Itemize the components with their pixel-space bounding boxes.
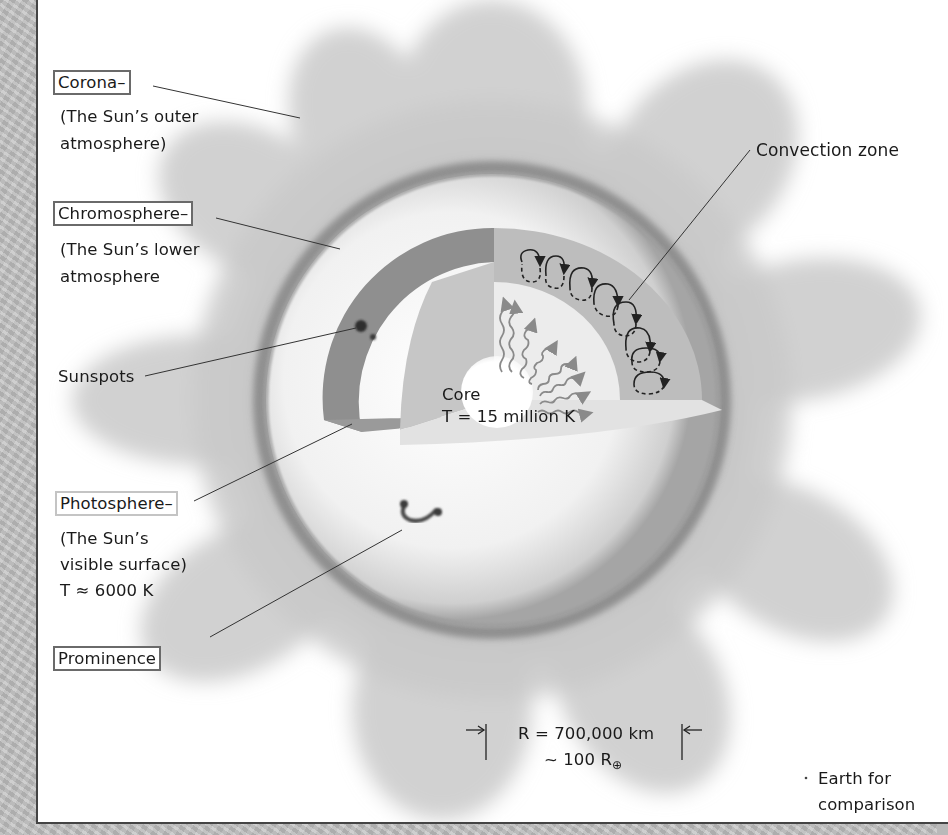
earth-dot — [805, 777, 808, 780]
photosphere-desc-1: (The Sun’s — [60, 528, 149, 549]
photosphere-desc-2: visible surface) — [60, 554, 187, 575]
corona-desc-2: atmosphere) — [60, 133, 167, 154]
chromosphere-desc-2: atmosphere — [60, 266, 160, 287]
earth-label-2: comparison — [818, 794, 915, 815]
prominence-label: Prominence — [53, 646, 161, 671]
radius-earth-ratio: ~ 100 R⊕ — [544, 749, 622, 776]
corona-name-box: Corona– — [53, 70, 131, 95]
chromosphere-name-box: Chromosphere– — [53, 201, 193, 226]
corona-label: Corona– — [53, 70, 131, 95]
photosphere-name-box: Photosphere– — [55, 491, 178, 516]
core-temperature: T = 15 million K — [442, 406, 575, 427]
sunspots-label: Sunspots — [58, 366, 134, 387]
earth-label-1: Earth for — [818, 768, 891, 789]
chromosphere-desc-1: (The Sun’s lower — [60, 239, 200, 260]
core-label: Core — [442, 384, 481, 405]
radius-earth-ratio-text: ~ 100 R — [544, 750, 612, 769]
earth-symbol-icon: ⊕ — [612, 758, 622, 772]
photosphere-temperature: T ≈ 6000 K — [60, 580, 153, 601]
photosphere-label: Photosphere– — [55, 491, 178, 516]
radius-label: R = 700,000 km — [518, 723, 654, 744]
prominence-name-box: Prominence — [53, 646, 161, 671]
corona-desc-1: (The Sun’s outer — [60, 106, 198, 127]
convection-zone-label: Convection zone — [756, 140, 899, 161]
chromosphere-label: Chromosphere– — [53, 201, 193, 226]
